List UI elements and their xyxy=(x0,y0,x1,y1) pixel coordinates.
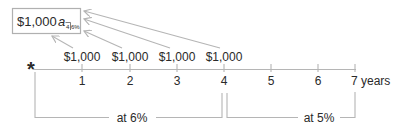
payment-labels: $1,000 $1,000 $1,000 $1,000 xyxy=(64,50,243,64)
payment-label-1: $1,000 xyxy=(64,50,101,64)
bracket-5pct-left xyxy=(227,93,298,118)
arrow-year-3 xyxy=(84,19,170,48)
bracket-5pct-right xyxy=(340,92,355,118)
bracket-6pct-right xyxy=(156,93,222,118)
payment-label-2: $1,000 xyxy=(112,50,149,64)
origin-marker-icon: * xyxy=(27,58,35,80)
tick-label-1: 1 xyxy=(79,74,86,88)
tick-labels: 1 2 3 4 5 6 7 years xyxy=(79,74,391,88)
period-label-5pct: at 5% xyxy=(304,111,335,125)
tick-label-6: 6 xyxy=(315,74,322,88)
tick-label-5: 5 xyxy=(268,74,275,88)
bracket-6pct-left xyxy=(35,72,109,118)
arrow-year-2 xyxy=(84,31,122,48)
arrow-year-1 xyxy=(52,36,73,48)
payment-label-3: $1,000 xyxy=(159,50,196,64)
tick-label-2: 2 xyxy=(127,74,134,88)
period-label-6pct: at 6% xyxy=(117,111,148,125)
tick-label-7: 7 years xyxy=(351,74,390,88)
timeline-axis xyxy=(33,64,356,72)
box-amount: $1,000 xyxy=(17,14,57,29)
annuity-timeline-diagram: $1,000 a 4 6% $1,000 $1,000 $1,000 $1,00… xyxy=(0,0,406,126)
tick-label-3: 3 xyxy=(174,74,181,88)
payment-label-4: $1,000 xyxy=(206,50,243,64)
tick-label-4: 4 xyxy=(221,74,228,88)
present-value-box: $1,000 a 4 6% xyxy=(13,9,81,34)
box-annuity-symbol: a xyxy=(58,14,65,29)
box-subscript-rate: 6% xyxy=(71,24,80,30)
